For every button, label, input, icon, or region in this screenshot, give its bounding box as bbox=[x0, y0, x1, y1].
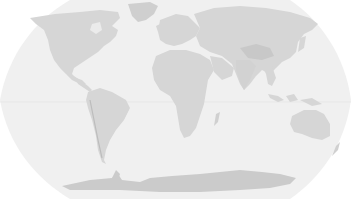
map-canvas bbox=[0, 0, 351, 199]
world-map: World map bbox=[0, 0, 351, 199]
